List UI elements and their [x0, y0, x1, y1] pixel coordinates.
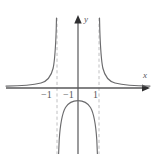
x-tick-label-pos1: 1	[93, 90, 98, 100]
x-tick-label-neg1: −1	[41, 90, 52, 100]
y-axis-arrowhead	[74, 15, 81, 24]
y-tick-label-neg1: −1	[63, 90, 74, 100]
plot-canvas	[0, 0, 157, 154]
graph-figure: −1 1 −1 x y	[0, 0, 157, 154]
curve-left-branch	[6, 18, 57, 86]
y-axis-label: y	[84, 15, 88, 24]
x-axis-label: x	[143, 71, 147, 80]
